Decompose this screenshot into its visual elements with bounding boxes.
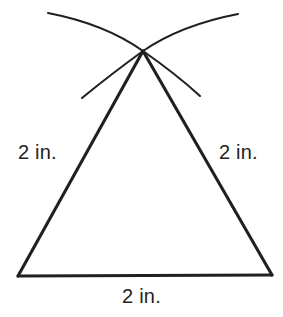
compass-arc-right (82, 14, 238, 98)
triangle-side-right (143, 51, 272, 275)
triangle-side-left (18, 51, 143, 276)
triangle-base (18, 275, 272, 276)
side-label-right: 2 in. (219, 142, 258, 162)
geometry-figure: 2 in. 2 in. 2 in. (0, 0, 283, 317)
side-label-left: 2 in. (18, 142, 57, 162)
side-label-base: 2 in. (0, 286, 283, 306)
